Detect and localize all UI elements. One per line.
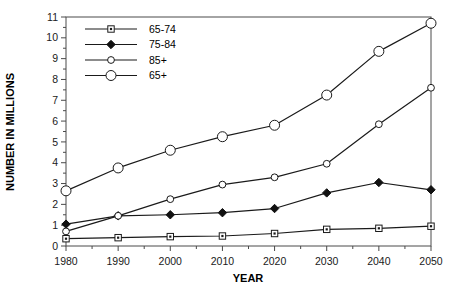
data-point [219,181,226,188]
data-point [167,196,174,203]
y-tick-label: 4 [52,156,58,168]
data-point [61,186,71,196]
x-tick-label: 2000 [159,255,183,267]
data-point [428,84,435,91]
chart-container: 01234567891011 1980199020002010202020302… [0,0,459,287]
legend-marker [108,57,115,64]
data-point [115,212,122,219]
chart-background [0,0,459,287]
line-chart: 01234567891011 1980199020002010202020302… [0,0,459,287]
data-point [113,163,123,173]
y-tick-label: 1 [52,219,58,231]
y-axis-title: NUMBER IN MILLIONS [4,73,16,191]
x-tick-label: 2030 [315,255,339,267]
x-axis-title: YEAR [233,272,264,284]
x-tick-label: 2040 [367,255,391,267]
data-point [271,174,278,181]
y-tick-label: 2 [52,198,58,210]
y-tick-label: 3 [52,177,58,189]
data-point [428,223,434,229]
y-tick-label: 8 [52,73,58,85]
x-tick-label: 1990 [106,255,130,267]
y-tick-label: 7 [52,94,58,106]
data-point [167,233,173,239]
data-point [270,120,280,130]
x-tick-label: 1980 [54,255,78,267]
data-point [165,145,175,155]
data-point [115,234,121,240]
legend-label: 75-84 [149,38,176,50]
x-tick-label: 2020 [263,255,287,267]
data-point [426,18,436,28]
legend-label: 65+ [149,69,167,81]
y-tick-label: 9 [52,52,58,64]
data-point [322,90,332,100]
data-point [374,46,384,56]
y-tick-label: 5 [52,136,58,148]
legend-label: 85+ [149,54,167,66]
x-tick-label: 2050 [419,255,443,267]
data-point [63,228,70,235]
data-point [324,226,330,232]
data-point [63,236,69,242]
data-point [271,230,277,236]
data-point [323,160,330,167]
data-point [217,132,227,142]
y-tick-label: 10 [46,31,58,43]
y-tick-label: 6 [52,115,58,127]
legend-label: 65-74 [149,23,176,35]
y-tick-label: 11 [47,11,58,23]
y-tick-label: 0 [52,240,58,252]
legend-marker [108,26,114,32]
data-point [376,225,382,231]
legend-marker [106,71,116,81]
x-tick-label: 2010 [211,255,235,267]
data-point [375,121,382,128]
data-point [219,233,225,239]
